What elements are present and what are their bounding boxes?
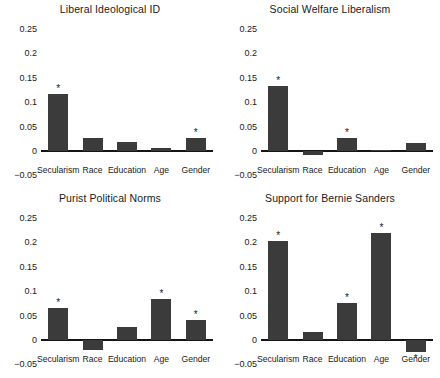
- bar-education: [117, 327, 137, 340]
- bar-age: [151, 148, 171, 151]
- y-tick-label: 0.15: [19, 73, 37, 83]
- y-tick-label: 0.05: [239, 311, 257, 321]
- bar-race: [83, 340, 103, 350]
- significance-star: *: [371, 224, 391, 232]
- x-axis-labels: SecularismRaceEducationAgeGender: [41, 354, 213, 370]
- bar-gender: [186, 138, 206, 151]
- bar-age: [371, 150, 391, 152]
- x-tick-label: Education: [328, 165, 366, 175]
- figure-panel-grid: Liberal Ideological ID 0.250.20.150.10.0…: [0, 0, 440, 378]
- x-tick-label: Secularism: [257, 354, 300, 364]
- x-tick-label: Secularism: [37, 165, 80, 175]
- x-tick-label: Education: [328, 354, 366, 364]
- y-axis-labels: 0.250.20.150.10.050−0.05: [220, 189, 257, 378]
- significance-star: *: [186, 311, 206, 319]
- bar-gender: [406, 143, 426, 151]
- x-tick-label: Race: [83, 354, 103, 364]
- significance-star: *: [186, 129, 206, 137]
- x-axis-labels: SecularismRaceEducationAgeGender: [41, 165, 213, 181]
- y-axis-labels: 0.250.20.150.10.050−0.05: [220, 0, 257, 189]
- plot-area: **: [41, 20, 213, 160]
- bar-secularism: [48, 94, 68, 151]
- chart-panel-3: Support for Bernie Sanders 0.250.20.150.…: [220, 189, 440, 378]
- y-tick-label: 0.15: [19, 262, 37, 272]
- x-axis-labels: SecularismRaceEducationAgeGender: [261, 165, 433, 181]
- chart-panel-0: Liberal Ideological ID 0.250.20.150.10.0…: [0, 0, 220, 189]
- chart-panel-1: Social Welfare Liberalism 0.250.20.150.1…: [220, 0, 440, 189]
- y-tick-label: −0.05: [14, 170, 37, 180]
- y-tick-label: 0.2: [24, 237, 37, 247]
- x-tick-label: Age: [154, 354, 169, 364]
- y-tick-label: 0.2: [244, 48, 257, 58]
- bar-age: [151, 299, 171, 340]
- plot-area: ***: [41, 209, 213, 349]
- bar-age: [371, 233, 391, 340]
- significance-star: *: [268, 77, 288, 85]
- x-tick-label: Race: [303, 354, 323, 364]
- y-tick-label: 0.05: [239, 122, 257, 132]
- x-tick-label: Race: [83, 165, 103, 175]
- y-tick-label: 0.2: [244, 237, 257, 247]
- bar-education: [117, 142, 137, 151]
- y-axis-labels: 0.250.20.150.10.050−0.05: [0, 0, 37, 189]
- bar-race: [83, 138, 103, 151]
- x-axis-labels: SecularismRaceEducationAgeGender: [261, 354, 433, 370]
- y-tick-label: −0.05: [14, 359, 37, 369]
- chart-panel-2: Purist Political Norms 0.250.20.150.10.0…: [0, 189, 220, 378]
- x-tick-label: Secularism: [257, 165, 300, 175]
- bar-education: [337, 303, 357, 340]
- bar-secularism: [268, 241, 288, 340]
- y-tick-label: 0.25: [239, 213, 257, 223]
- bar-gender: [186, 320, 206, 340]
- x-tick-label: Age: [154, 165, 169, 175]
- y-tick-label: 0: [252, 146, 257, 156]
- significance-star: *: [48, 299, 68, 307]
- significance-star: *: [48, 85, 68, 93]
- significance-star: *: [268, 232, 288, 240]
- bar-education: [337, 138, 357, 151]
- y-tick-label: 0.25: [19, 24, 37, 34]
- y-tick-label: 0.1: [244, 286, 257, 296]
- x-tick-label: Education: [108, 354, 146, 364]
- significance-star: *: [151, 290, 171, 298]
- x-tick-label: Race: [303, 165, 323, 175]
- plot-area: **: [261, 20, 433, 160]
- bar-secularism: [48, 308, 68, 340]
- y-tick-label: 0: [32, 335, 37, 345]
- y-tick-label: 0.15: [239, 73, 257, 83]
- y-tick-label: 0.1: [24, 97, 37, 107]
- y-tick-label: 0.1: [24, 286, 37, 296]
- y-tick-label: 0.05: [19, 122, 37, 132]
- y-tick-label: 0.2: [24, 48, 37, 58]
- y-axis-labels: 0.250.20.150.10.050−0.05: [0, 189, 37, 378]
- y-tick-label: −0.05: [234, 359, 257, 369]
- x-tick-label: Gender: [181, 354, 210, 364]
- y-tick-label: 0: [32, 146, 37, 156]
- x-tick-label: Gender: [181, 165, 210, 175]
- bar-race: [303, 332, 323, 340]
- y-tick-label: 0.25: [19, 213, 37, 223]
- plot-area: ****: [261, 209, 433, 349]
- y-tick-label: −0.05: [234, 170, 257, 180]
- x-tick-label: Age: [374, 354, 389, 364]
- significance-star: *: [337, 129, 357, 137]
- x-tick-label: Secularism: [37, 354, 80, 364]
- bar-gender: [406, 340, 426, 352]
- x-tick-label: Gender: [401, 165, 430, 175]
- y-tick-label: 0.25: [239, 24, 257, 34]
- y-tick-label: 0.05: [19, 311, 37, 321]
- bar-race: [303, 151, 323, 155]
- y-tick-label: 0: [252, 335, 257, 345]
- y-tick-label: 0.15: [239, 262, 257, 272]
- significance-star: *: [337, 294, 357, 302]
- x-tick-label: Gender: [401, 354, 430, 364]
- bar-secularism: [268, 86, 288, 151]
- x-tick-label: Age: [374, 165, 389, 175]
- x-tick-label: Education: [108, 165, 146, 175]
- y-tick-label: 0.1: [244, 97, 257, 107]
